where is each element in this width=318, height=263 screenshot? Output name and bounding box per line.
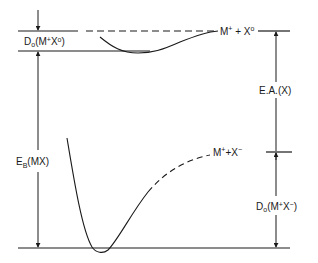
eb-label: EB(MX) — [16, 156, 49, 169]
d0-ionic-label: Do(M+X−) — [256, 201, 297, 213]
ionic-potential-curve-solid — [67, 138, 148, 252]
electron-affinity-label: E.A.(X) — [259, 85, 291, 96]
ionic-potential-curve-dashed — [148, 155, 210, 192]
ionic-asymptote-label: M++X− — [213, 146, 242, 158]
energy-diagram: Do(M+Xo) EB(MX) M+ + Xo E.A.(X) M++X− Do… — [0, 0, 318, 263]
neutral-asymptote-label: M+ + Xo — [220, 25, 255, 37]
covalent-potential-curve — [100, 31, 218, 53]
d0-neutral-label: Do(M+Xo) — [24, 36, 65, 48]
